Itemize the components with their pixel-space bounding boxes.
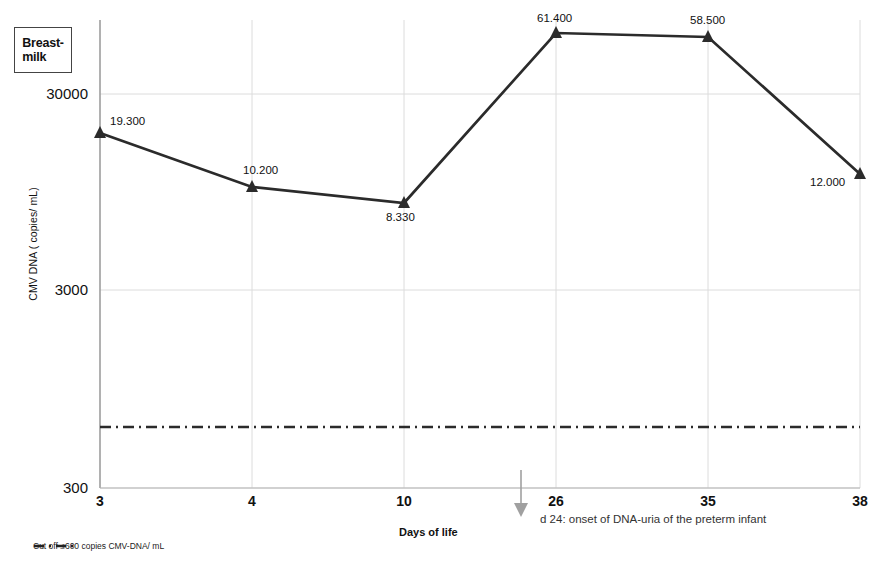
data-label-day-26: 61.400 <box>537 12 572 24</box>
x-axis-title: Days of life <box>399 526 458 538</box>
onset-arrow-icon <box>514 470 528 517</box>
x-tick-38: 38 <box>840 493 880 509</box>
y-tick-3000: 3000 <box>10 281 88 298</box>
y-tick-300: 300 <box>10 479 88 496</box>
cutoff-legend-swatch-icon <box>33 541 75 551</box>
x-tick-10: 10 <box>384 493 424 509</box>
horizontal-gridlines <box>100 94 860 488</box>
data-series-line <box>100 33 860 203</box>
data-label-day-3: 19.300 <box>110 115 145 127</box>
chart-canvas <box>0 0 889 569</box>
cutoff-legend: Cut off ≤600 copies CMV-DNA/ mL <box>33 541 164 551</box>
data-label-day-10: 8.330 <box>386 211 415 223</box>
y-axis-title: CMV DNA ( copies/ mL) <box>27 159 39 329</box>
data-label-day-38: 12.000 <box>810 176 845 188</box>
x-tick-4: 4 <box>232 493 272 509</box>
series-legend-label-line1: Breast-milk <box>22 36 64 65</box>
x-tick-35: 35 <box>688 493 728 509</box>
y-tick-30000: 30000 <box>10 85 88 102</box>
x-tick-3: 3 <box>80 493 120 509</box>
series-legend-box: Breast-milk <box>14 27 72 73</box>
data-label-day-4: 10.200 <box>243 164 278 176</box>
onset-annotation-text: d 24: onset of DNA-uria of the preterm i… <box>540 513 766 525</box>
cmv-dna-breastmilk-chart: Breast-milk 30000 3000 300 CMV DNA ( cop… <box>0 0 889 569</box>
vertical-gridlines <box>100 20 860 488</box>
x-tick-26: 26 <box>536 493 576 509</box>
data-label-day-35: 58.500 <box>690 14 725 26</box>
